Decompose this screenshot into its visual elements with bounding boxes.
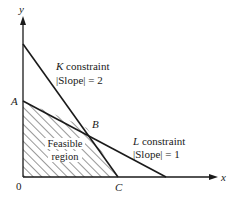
origin-label: 0 <box>16 180 22 192</box>
region-label-line2: region <box>52 151 80 162</box>
k-slope-label: |Slope| = 2 <box>56 74 103 86</box>
l-slope-label: |Slope| = 1 <box>133 148 180 160</box>
region-label-line1: Feasible <box>48 138 83 149</box>
k-constraint-label: K constraint <box>55 60 109 72</box>
y-axis-label: y <box>18 3 24 15</box>
l-constraint-label: L constraint <box>132 135 185 147</box>
point-c-label: C <box>115 181 123 193</box>
diagram-canvas: y x 0 A B C K constraint |Slope| = 2 L c… <box>0 0 235 197</box>
point-a-label: A <box>10 95 18 107</box>
x-axis-label: x <box>220 171 226 183</box>
point-b-label: B <box>92 118 99 130</box>
